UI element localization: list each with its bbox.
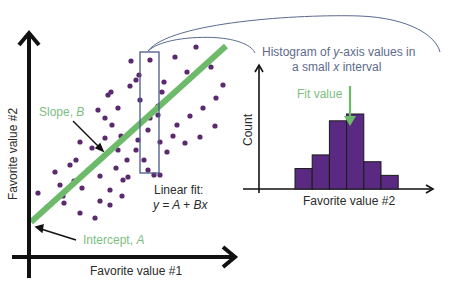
scatter-point	[79, 185, 84, 190]
scatter-point	[145, 167, 150, 172]
scatter-point	[200, 105, 205, 110]
scatter-point	[35, 190, 40, 195]
slope-label: Slope, B	[39, 106, 84, 118]
histogram-y-axis-label: Count	[242, 114, 254, 146]
scatter-point	[159, 89, 164, 94]
scatter-point	[77, 210, 82, 215]
scatter-point	[115, 105, 120, 110]
scatter-point	[102, 135, 107, 140]
scatter-point	[109, 122, 114, 127]
scatter-point	[172, 54, 177, 59]
histogram-title-line2: a small x interval	[292, 61, 381, 73]
scatter-point	[125, 174, 130, 179]
scatter-point	[161, 79, 166, 84]
scatter-point	[133, 77, 138, 82]
scatter-point	[77, 139, 82, 144]
histogram-bar	[329, 121, 346, 189]
scatter-point	[193, 44, 198, 49]
scatter-y-axis-label: Favorite value #2	[7, 108, 19, 200]
scatter-point	[220, 82, 225, 87]
histogram-x-axis-label: Favorite value #2	[303, 195, 395, 207]
scatter-point	[108, 89, 113, 94]
scatter-point	[147, 57, 152, 62]
hist-title-text-4: interval	[339, 60, 381, 74]
scatter-point	[145, 127, 150, 132]
scatter-point	[182, 140, 187, 145]
scatter-point	[73, 157, 78, 162]
scatter-point	[157, 139, 162, 144]
hist-title-text-2: -axis values in	[339, 45, 415, 59]
scatter-point	[67, 162, 72, 167]
intercept-label-text: Intercept,	[83, 233, 136, 247]
scatter-point	[57, 182, 62, 187]
scatter-point	[97, 198, 102, 203]
slope-symbol: B	[76, 105, 84, 119]
fit-value-label: Fit value	[297, 88, 342, 100]
scatter-point	[174, 122, 179, 127]
scatter-point	[61, 200, 66, 205]
scatter-point	[141, 157, 146, 162]
scatter-point	[136, 72, 141, 77]
scatter-point	[127, 83, 132, 88]
histogram-bar	[295, 169, 312, 189]
slope-pointer	[73, 121, 103, 151]
hist-title-text-3: a small	[292, 60, 333, 74]
intercept-pointer	[36, 225, 76, 240]
scatter-point	[119, 193, 124, 198]
scatter-x-axis-label: Favorite value #1	[90, 265, 182, 277]
scatter-point	[102, 115, 107, 120]
scatter-point	[120, 177, 125, 182]
scatter-point	[128, 58, 133, 63]
scatter-point	[52, 169, 57, 174]
slope-label-text: Slope,	[39, 105, 76, 119]
intercept-label: Intercept, A	[83, 234, 144, 246]
scatter-point	[113, 165, 118, 170]
scatter-point	[89, 145, 94, 150]
scatter-point	[124, 157, 129, 162]
scatter-point	[213, 95, 218, 100]
histogram-title-line1: Histogram of y-axis values in	[262, 46, 415, 58]
histogram-bars	[295, 114, 398, 189]
scatter-point	[107, 187, 112, 192]
scatter-point	[92, 215, 97, 220]
scatter-point	[197, 134, 202, 139]
scatter-point	[184, 69, 189, 74]
intercept-arrowhead-icon	[36, 225, 43, 232]
diagram-canvas	[0, 0, 449, 289]
linear-fit-title: Linear fit:	[154, 184, 203, 196]
linear-fit-equation: y = A + Bx	[153, 199, 207, 211]
scatter-point	[170, 133, 175, 138]
hist-title-text: Histogram of	[262, 45, 333, 59]
scatter-point	[97, 173, 102, 178]
scatter-point	[133, 147, 138, 152]
scatter-point	[187, 113, 192, 118]
intercept-symbol: A	[136, 233, 144, 247]
histogram-bar	[364, 162, 381, 189]
scatter-point	[212, 123, 217, 128]
scatter-point	[95, 107, 100, 112]
scatter-point	[155, 112, 160, 117]
histogram-bar	[381, 175, 398, 189]
scatter-point	[107, 202, 112, 207]
histogram-bar	[312, 155, 329, 189]
histogram-bar	[347, 114, 364, 189]
scatter-point	[164, 149, 169, 154]
